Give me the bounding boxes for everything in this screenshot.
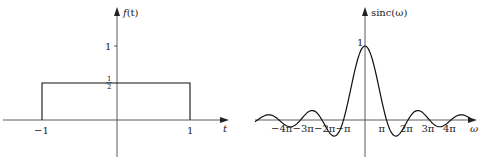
omega-tick-label: π [379, 123, 386, 134]
rect-pulse-plot: f(t) 1 1 2 −1 1 t [3, 7, 229, 157]
omega-tick-label: −π [336, 123, 351, 134]
tick-neg1: −1 [34, 125, 49, 136]
omega-tick-label: 2π [400, 123, 413, 134]
f-axis-label: f(t) [122, 7, 139, 18]
omega-tick-label: −3π [293, 123, 315, 134]
figure: f(t) 1 1 2 −1 1 t sinc(ω) 1 ω −4π−3π−2π−… [0, 0, 480, 161]
half-numerator: 1 [107, 75, 111, 83]
t-axis-label: t [223, 123, 228, 134]
omega-axis-label: ω [470, 123, 478, 134]
sinc-axis-arrow-icon [362, 7, 368, 16]
omega-tick-label: 3π [422, 123, 435, 134]
tick-one: 1 [105, 41, 111, 52]
f-axis-arrow-icon [114, 7, 120, 16]
omega-tick-labels: −4π−3π−2π−ππ2π3π4π [271, 123, 456, 134]
omega-tick-label: 4π [443, 123, 456, 134]
tick-pos1: 1 [187, 125, 193, 136]
omega-tick-label: −2π [314, 123, 336, 134]
omega-tick-label: −4π [271, 123, 293, 134]
sinc-plot: sinc(ω) 1 ω −4π−3π−2π−ππ2π3π4π [255, 7, 478, 157]
rect-pulse-curve [42, 83, 190, 120]
sinc-axis-label: sinc(ω) [371, 7, 407, 18]
peak-label: 1 [357, 37, 363, 48]
half-denominator: 2 [107, 83, 111, 91]
